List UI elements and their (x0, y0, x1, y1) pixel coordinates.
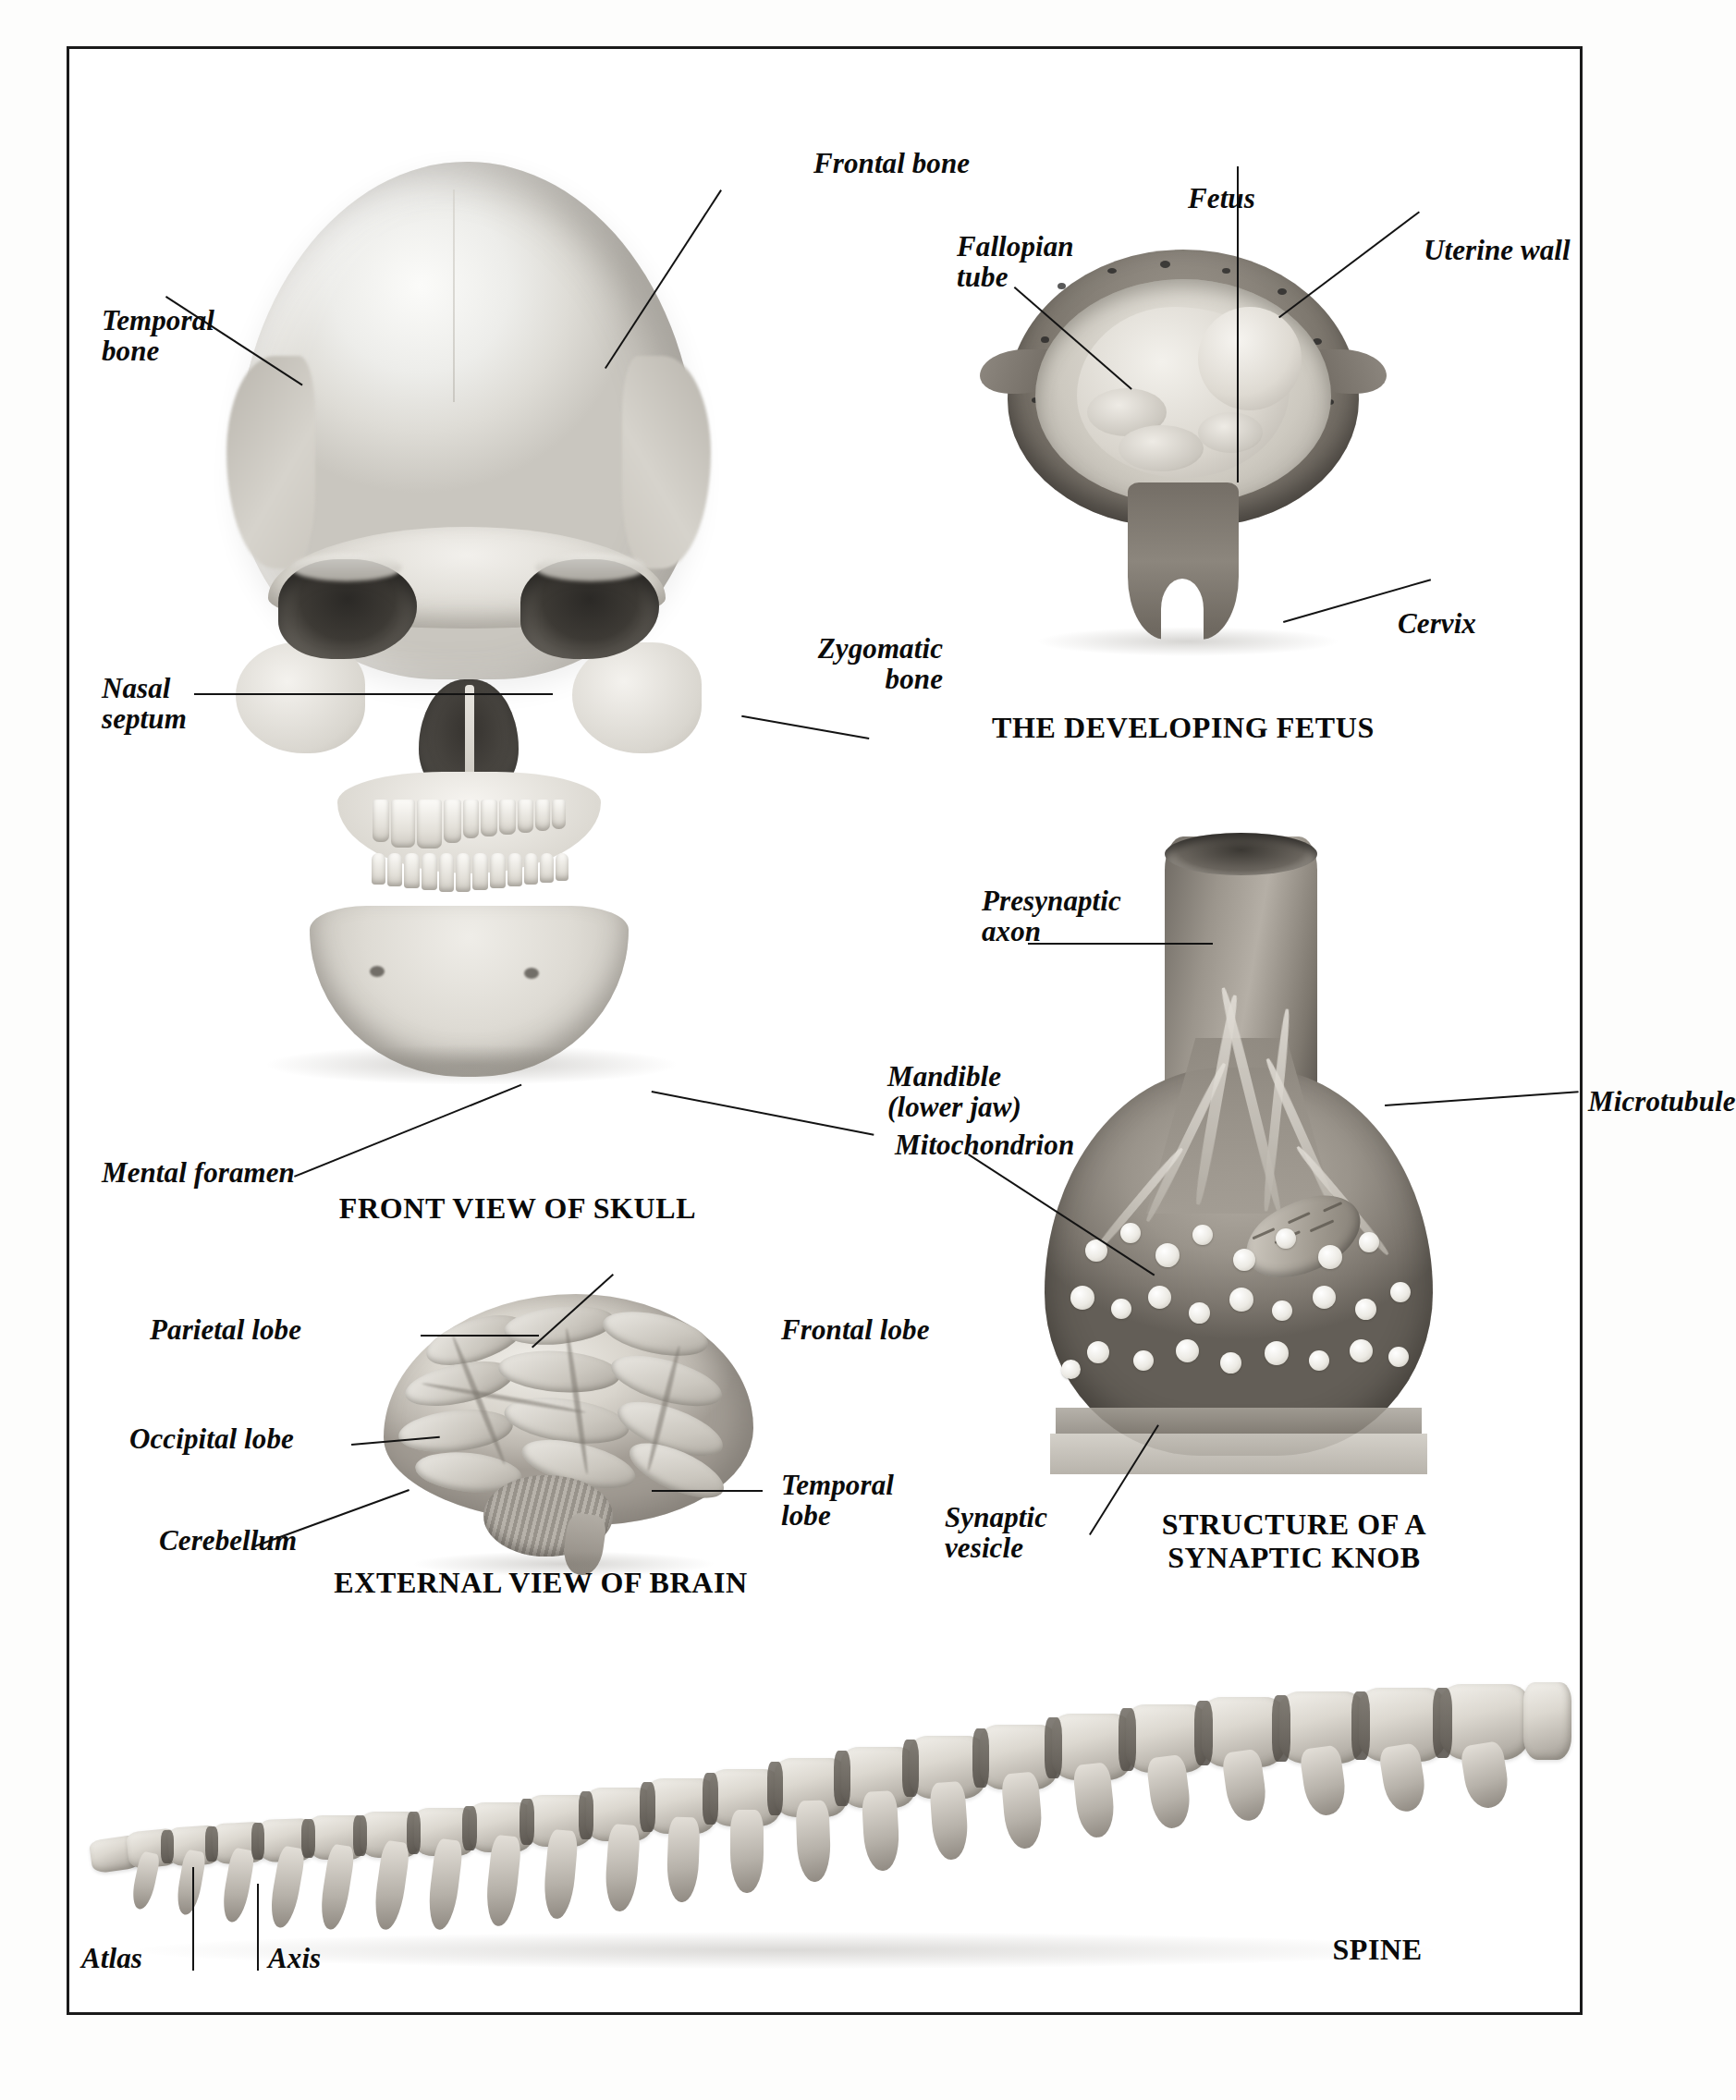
synaptic-knob-caption: STRUCTURE OF A SYNAPTIC KNOB (1100, 1508, 1488, 1575)
microtubule-label: Microtubule (1588, 1086, 1736, 1117)
right-orbit-rim (535, 554, 646, 581)
presynaptic-axon-label: Presynaptic axon (982, 885, 1121, 947)
fetus-drop-shadow (1035, 627, 1340, 656)
left-orbit-rim (291, 554, 402, 581)
temporal-lobe-label: Temporal lobe (781, 1470, 894, 1532)
parietal-lobe-leader (421, 1335, 539, 1337)
fetus-foot (1198, 412, 1263, 453)
lower-teeth (354, 853, 585, 892)
fetus-label: Fetus (1188, 183, 1255, 214)
frontal-lobe-label: Frontal lobe (781, 1314, 930, 1345)
cerebellum-label: Cerebellum (159, 1525, 297, 1556)
spine-caption: SPINE (1239, 1934, 1516, 1967)
left-temporal-region (226, 356, 315, 568)
fetus-caption: THE DEVELOPING FETUS (952, 712, 1414, 745)
skull-caption: FRONT VIEW OF SKULL (296, 1192, 740, 1226)
left-zygomatic-arch (236, 642, 365, 753)
mitochondrion-label: Mitochondrion (895, 1129, 1074, 1160)
uterine-wall-label: Uterine wall (1424, 235, 1571, 265)
brain-caption: EXTERNAL VIEW OF BRAIN (277, 1567, 804, 1600)
mandible-label: Mandible (lower jaw) (887, 1061, 1021, 1123)
mental-foramen-label: Mental foramen (102, 1157, 295, 1188)
atlas-label: Atlas (81, 1943, 142, 1973)
left-mental-foramen (370, 966, 385, 977)
fetus-leg (1119, 425, 1204, 471)
right-mental-foramen (524, 968, 539, 979)
right-zygomatic-arch (572, 642, 702, 753)
fetus-head (1198, 307, 1302, 410)
right-temporal-region (622, 356, 711, 568)
temporal-lobe-leader (652, 1490, 763, 1492)
atlas-leader (192, 1867, 194, 1971)
synaptic-vesicle-label: Synaptic vesicle (945, 1502, 1047, 1564)
axis-leader (257, 1884, 259, 1971)
axis-label: Axis (268, 1943, 321, 1973)
frontal-bone-label: Frontal bone (813, 148, 970, 178)
occipital-lobe-label: Occipital lobe (129, 1423, 294, 1454)
zygomatic-bone-label: Zygomatic bone (712, 633, 943, 695)
nasal-septum-leader (194, 693, 553, 695)
temporal-bone-label: Temporal bone (102, 305, 214, 367)
synaptic-cleft (1056, 1408, 1422, 1434)
axon-cut-rim (1165, 833, 1317, 875)
fallopian-tube-label: Fallopian tube (957, 231, 1074, 293)
sagittal-suture (453, 189, 455, 402)
skull-drop-shadow (263, 1044, 679, 1085)
parietal-lobe-label: Parietal lobe (150, 1314, 301, 1345)
cervix-label: Cervix (1398, 608, 1476, 639)
skull-illustration (199, 162, 735, 1068)
brain-illustration (384, 1294, 781, 1581)
nasal-septum-label: Nasal septum (102, 673, 187, 735)
upper-teeth (347, 800, 592, 849)
postsynaptic-membrane (1050, 1434, 1427, 1474)
